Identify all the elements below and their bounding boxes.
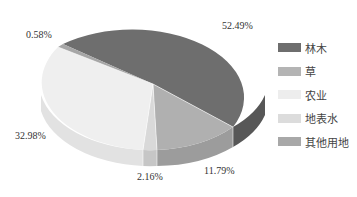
legend-item-grass[interactable]: 草 xyxy=(278,60,349,84)
legend-item-agriculture[interactable]: 农业 xyxy=(278,83,349,107)
legend-swatch-forest xyxy=(278,43,301,52)
label-surface-water: 2.16% xyxy=(137,171,163,182)
legend-item-surface-water[interactable]: 地表水 xyxy=(278,107,349,131)
legend: 林木 草 农业 地表水 其他用地 xyxy=(278,36,349,154)
legend-label: 其他用地 xyxy=(305,134,349,150)
legend-label: 地表水 xyxy=(305,110,338,126)
legend-swatch-surface-water xyxy=(278,114,301,123)
label-agriculture: 32.98% xyxy=(15,130,46,141)
legend-item-other-land[interactable]: 其他用地 xyxy=(278,130,349,154)
legend-label: 草 xyxy=(305,63,316,79)
legend-swatch-other-land xyxy=(278,137,301,146)
label-forest: 52.49% xyxy=(222,20,253,31)
label-other-land: 0.58% xyxy=(26,29,52,40)
label-grass: 11.79% xyxy=(204,165,234,176)
slice-water-side xyxy=(143,150,157,166)
legend-label: 农业 xyxy=(305,87,327,103)
legend-item-forest[interactable]: 林木 xyxy=(278,36,349,60)
legend-label: 林木 xyxy=(305,40,327,56)
legend-swatch-grass xyxy=(278,67,301,76)
legend-swatch-agriculture xyxy=(278,90,301,99)
